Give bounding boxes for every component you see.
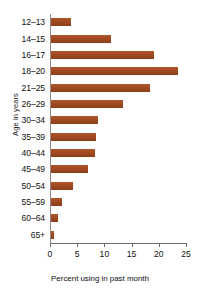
bar-fill <box>51 67 178 75</box>
bar-row: 60–64 <box>50 210 186 226</box>
bar-fill <box>51 214 58 222</box>
bar <box>51 100 123 108</box>
bar-row: 50–54 <box>50 178 186 194</box>
bar-row: 18–20 <box>50 63 186 79</box>
x-axis-tick <box>50 243 51 247</box>
bar <box>51 51 154 59</box>
bar-fill <box>51 182 73 190</box>
x-axis-tick <box>159 243 160 247</box>
bar <box>51 133 96 141</box>
bar <box>51 165 88 173</box>
x-axis-line <box>50 243 186 244</box>
bar-fill <box>51 84 150 92</box>
x-axis-tick <box>186 243 187 247</box>
bar-fill <box>51 231 54 239</box>
bar-row: 21–25 <box>50 79 186 95</box>
x-axis-tick-label: 0 <box>48 249 53 259</box>
x-axis-tick <box>104 243 105 247</box>
bar-row: 16–17 <box>50 47 186 63</box>
bar-row: 55–59 <box>50 194 186 210</box>
bar-chart: Age in years 12–1314–1516–1718–2021–2526… <box>0 0 200 291</box>
y-axis-tick-label: 35–39 <box>22 132 45 142</box>
x-axis-tick <box>132 243 133 247</box>
bar-fill <box>51 100 123 108</box>
bar-fill <box>51 116 98 124</box>
y-axis-tick-label: 50–54 <box>22 181 45 191</box>
y-axis-tick-label: 65+ <box>31 230 45 240</box>
bar <box>51 18 71 26</box>
bar-row: 40–44 <box>50 145 186 161</box>
bar-fill <box>51 165 88 173</box>
bar-row: 26–29 <box>50 96 186 112</box>
bar-row: 12–13 <box>50 14 186 30</box>
x-axis-tick-label: 15 <box>127 249 137 259</box>
bar <box>51 116 98 124</box>
y-axis-tick-label: 14–15 <box>22 34 45 44</box>
bar <box>51 182 73 190</box>
bar <box>51 231 54 239</box>
bar <box>51 149 95 157</box>
y-axis-tick-label: 21–25 <box>22 83 45 93</box>
bar-fill <box>51 18 71 26</box>
y-axis-tick-label: 26–29 <box>22 99 45 109</box>
x-axis-tick-label: 20 <box>154 249 164 259</box>
bar <box>51 67 178 75</box>
y-axis-tick-label: 55–59 <box>22 197 45 207</box>
bar-fill <box>51 51 154 59</box>
bar <box>51 198 62 206</box>
bar-fill <box>51 35 111 43</box>
bar-row: 45–49 <box>50 161 186 177</box>
bar <box>51 214 58 222</box>
bar-row: 35–39 <box>50 129 186 145</box>
plot-area: 12–1314–1516–1718–2021–2526–2930–3435–39… <box>50 14 186 243</box>
bar-fill <box>51 198 62 206</box>
y-axis-tick-label: 30–34 <box>22 115 45 125</box>
x-axis-tick-label: 10 <box>100 249 110 259</box>
bar <box>51 84 150 92</box>
x-axis-title: Percent using in past month <box>0 274 200 283</box>
bar-row: 65+ <box>50 227 186 243</box>
bar-row: 30–34 <box>50 112 186 128</box>
x-axis-tick-label: 5 <box>75 249 80 259</box>
bar-fill <box>51 149 95 157</box>
y-axis-tick-label: 60–64 <box>22 213 45 223</box>
x-axis-tick-label: 25 <box>181 249 191 259</box>
y-axis-tick-label: 18–20 <box>22 66 45 76</box>
y-axis-tick-label: 45–49 <box>22 164 45 174</box>
bar <box>51 35 111 43</box>
y-axis-tick-label: 16–17 <box>22 50 45 60</box>
y-axis-tick-label: 40–44 <box>22 148 45 158</box>
bar-fill <box>51 133 96 141</box>
x-axis-tick <box>77 243 78 247</box>
y-axis-tick-label: 12–13 <box>22 17 45 27</box>
bar-row: 14–15 <box>50 30 186 46</box>
y-axis-title: Age in years <box>11 67 20 163</box>
